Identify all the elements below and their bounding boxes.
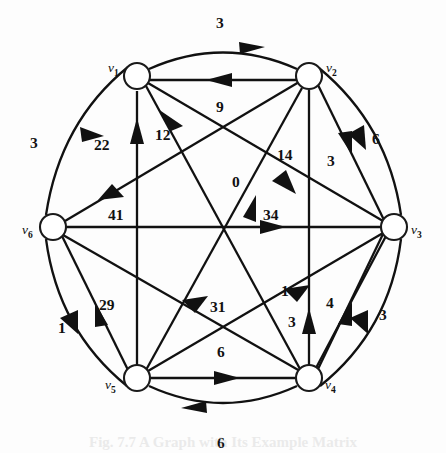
edge-weight-v2-v1: 9 — [216, 98, 224, 115]
edge-weight-v4-v2-upper: 3 — [327, 152, 335, 169]
edge-weight-v6-v3: 34 — [263, 206, 279, 223]
node-label-v5: v5 — [105, 377, 116, 395]
node-label-v6: v6 — [22, 222, 33, 240]
node-v5[interactable] — [124, 365, 150, 391]
edge-v3-v4-arc — [320, 239, 401, 386]
edge-weight-v6-v5: 1 — [58, 319, 66, 336]
node-label-v3: v3 — [411, 222, 422, 240]
edge-weight-v2-v3: 6 — [372, 130, 380, 147]
edge-weight-v5-v1: 22 — [94, 136, 110, 153]
edge-weight-v3-v1: 14 — [277, 146, 293, 163]
edge-weight-v3-v4: 3 — [379, 306, 387, 323]
edge-v6-v5-arc — [46, 239, 127, 386]
edge-weight-v5-v6: 29 — [99, 296, 115, 313]
arrowhead-v4-v5 — [181, 401, 207, 413]
arrowhead-v5-v2 — [243, 195, 256, 222]
figure-caption: Fig. 7.7 A Graph with Its Example Matrix — [0, 427, 446, 453]
arrowhead-v1-v2 — [239, 42, 265, 54]
node-v1[interactable] — [124, 63, 150, 89]
arrowhead-v2-v1 — [206, 73, 232, 87]
graph-figure: v1 v2 v3 v4 v5 v6 3 9 3 22 12 41 3 6 0 1… — [0, 0, 446, 453]
edge-weight-v6-v4: 31 — [210, 298, 226, 315]
arrowhead-v6-v2 — [98, 184, 124, 200]
node-label-v1: v1 — [108, 60, 119, 78]
edge-weight-v5-v3: 1 — [281, 282, 289, 299]
edge-weight-v1-v2: 3 — [216, 14, 224, 31]
edge-v1-v2-arc — [149, 53, 297, 70]
edge-weight-v4-v2-lower: 3 — [288, 313, 296, 330]
node-v6[interactable] — [40, 214, 66, 240]
node-v3[interactable] — [381, 214, 407, 240]
edge-weight-v4-v3: 4 — [326, 294, 334, 311]
node-v2[interactable] — [296, 63, 322, 89]
node-label-v4: v4 — [325, 377, 336, 395]
graph-canvas: v1 v2 v3 v4 v5 v6 3 9 3 22 12 41 3 6 0 1… — [0, 0, 446, 453]
node-v4[interactable] — [296, 365, 322, 391]
arrowhead-v2-v3-chord — [338, 131, 352, 155]
arrowhead-v4-v2 — [302, 308, 316, 334]
edge-v4-v5-arc — [149, 386, 297, 403]
edge-weight-v5-v2: 0 — [232, 173, 240, 190]
edge-weight-v6-v1: 3 — [30, 134, 38, 151]
arrowhead-v3-v1 — [272, 170, 296, 194]
arrowhead-v3-v4 — [350, 310, 368, 334]
arrowhead-v5-v1 — [130, 118, 144, 144]
arrowhead-v5-v4 — [214, 371, 240, 385]
edge-weight-v5-v4: 6 — [217, 343, 225, 360]
edge-weight-v6-v2: 41 — [108, 206, 124, 223]
edge-weight-v4-v1: 12 — [155, 126, 171, 143]
